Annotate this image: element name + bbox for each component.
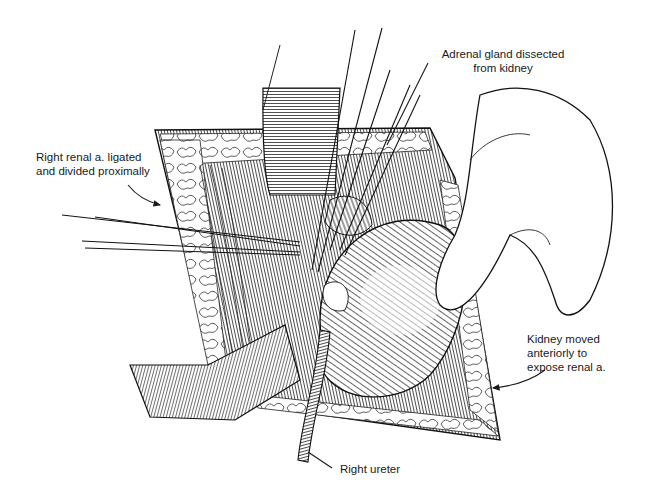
label-kidney-line3: expose renal a. — [527, 360, 606, 374]
label-renal-artery: Right renal a. ligated and divided proxi… — [36, 150, 150, 178]
label-renal-artery-line2: and divided proximally — [36, 164, 150, 178]
label-ureter-line1: Right ureter — [340, 462, 400, 476]
label-adrenal-line2: from kidney — [428, 61, 578, 75]
surgeon-hand — [436, 88, 613, 315]
label-kidney: Kidney moved anteriorly to expose renal … — [527, 332, 606, 374]
label-adrenal-gland: Adrenal gland dissected from kidney — [428, 47, 578, 75]
upper-retractor — [263, 45, 340, 195]
ureter-leader-line — [308, 452, 332, 468]
label-right-ureter: Right ureter — [340, 462, 400, 476]
renal-artery-arrow — [128, 185, 160, 205]
label-kidney-line1: Kidney moved — [527, 332, 606, 346]
label-kidney-line2: anteriorly to — [527, 346, 606, 360]
label-renal-artery-line1: Right renal a. ligated — [36, 150, 150, 164]
label-adrenal-line1: Adrenal gland dissected — [428, 47, 578, 61]
